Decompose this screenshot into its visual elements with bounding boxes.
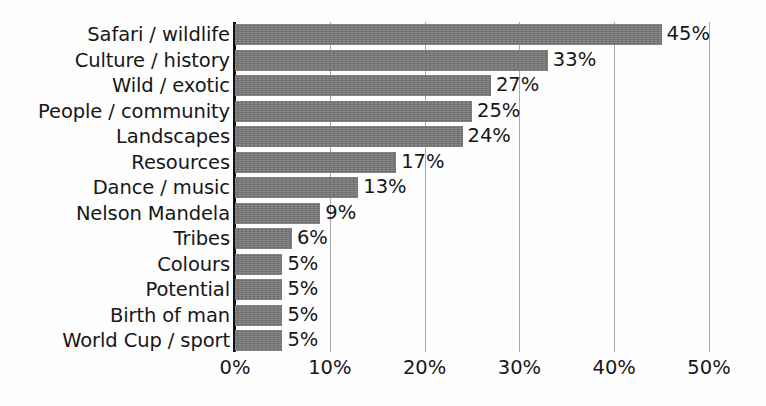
value-tick-label: 40%	[593, 356, 636, 379]
bar-row: 33%	[235, 48, 709, 74]
category-axis-labels: Safari / wildlifeCulture / historyWild /…	[0, 22, 230, 354]
category-label: Wild / exotic	[0, 73, 230, 99]
bar-row: 6%	[235, 226, 709, 252]
bar-value-label: 5%	[287, 276, 318, 301]
value-tick-label: 30%	[498, 356, 541, 379]
bar-chart: Safari / wildlifeCulture / historyWild /…	[0, 0, 766, 406]
bar	[235, 254, 282, 275]
bar-value-label: 27%	[496, 72, 539, 97]
bar	[235, 101, 472, 122]
category-label: Culture / history	[0, 48, 230, 74]
bar	[235, 126, 463, 147]
bar-value-label: 5%	[287, 251, 318, 276]
bar	[235, 24, 662, 45]
bar-value-label: 5%	[287, 327, 318, 352]
bar-value-label: 9%	[325, 200, 356, 225]
category-label: Birth of man	[0, 303, 230, 329]
value-tick-label: 10%	[308, 356, 351, 379]
gridline	[709, 22, 710, 352]
bar-value-label: 45%	[667, 21, 710, 46]
bar-row: 9%	[235, 201, 709, 227]
plot-area: 45%33%27%25%24%17%13%9%6%5%5%5%5%	[235, 22, 709, 352]
category-label: Nelson Mandela	[0, 201, 230, 227]
value-tick-label: 20%	[403, 356, 446, 379]
value-tick-label: 50%	[687, 356, 730, 379]
bar	[235, 305, 282, 326]
category-label: Tribes	[0, 226, 230, 252]
bar-value-label: 17%	[401, 149, 444, 174]
bar-row: 13%	[235, 175, 709, 201]
bar-row: 45%	[235, 22, 709, 48]
bar-value-label: 13%	[363, 174, 406, 199]
category-label: World Cup / sport	[0, 328, 230, 354]
bar-series: 45%33%27%25%24%17%13%9%6%5%5%5%5%	[235, 22, 709, 352]
bar-row: 5%	[235, 303, 709, 329]
bar-value-label: 24%	[468, 123, 511, 148]
category-label: Safari / wildlife	[0, 22, 230, 48]
category-label: People / community	[0, 99, 230, 125]
bar	[235, 279, 282, 300]
value-axis-tick-labels: 0%10%20%30%40%50%	[235, 356, 709, 386]
bar-value-label: 25%	[477, 98, 520, 123]
category-label: Landscapes	[0, 124, 230, 150]
category-label: Potential	[0, 277, 230, 303]
category-label: Colours	[0, 252, 230, 278]
bar	[235, 75, 491, 96]
bar-row: 5%	[235, 252, 709, 278]
category-label: Dance / music	[0, 175, 230, 201]
bar	[235, 330, 282, 351]
bar	[235, 50, 548, 71]
category-label: Resources	[0, 150, 230, 176]
value-tick-label: 0%	[220, 356, 251, 379]
bar	[235, 152, 396, 173]
bar-value-label: 6%	[297, 225, 328, 250]
bar-row: 25%	[235, 99, 709, 125]
bar	[235, 228, 292, 249]
bar	[235, 203, 320, 224]
bar-row: 17%	[235, 150, 709, 176]
bar-row: 27%	[235, 73, 709, 99]
bar-value-label: 5%	[287, 302, 318, 327]
bar-value-label: 33%	[553, 47, 596, 72]
bar-row: 24%	[235, 124, 709, 150]
bar-row: 5%	[235, 328, 709, 354]
bar	[235, 177, 358, 198]
bar-row: 5%	[235, 277, 709, 303]
